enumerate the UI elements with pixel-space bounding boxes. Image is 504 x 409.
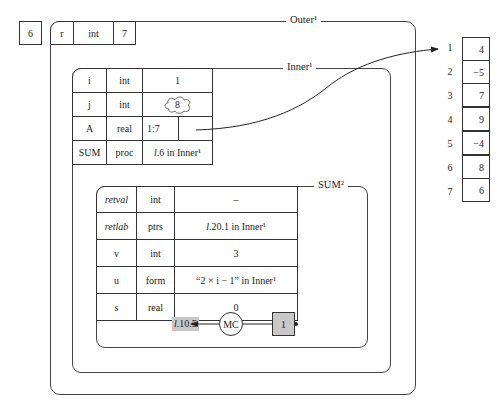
cell-text: real <box>117 123 132 134</box>
array-cell: 7 <box>462 83 490 107</box>
array-index: 5 <box>443 138 457 149</box>
cell-text: form <box>146 275 165 286</box>
cell-text: – <box>234 194 239 205</box>
inner-row-type: proc <box>106 140 143 165</box>
outer-var-type-text: int <box>88 28 99 39</box>
array-index: 2 <box>443 66 457 77</box>
cell-text: 0 <box>234 302 239 313</box>
outer-var-name: r <box>50 21 74 45</box>
sum-row-type: real <box>136 293 175 321</box>
outer-var-value-text: 7 <box>122 28 127 39</box>
array-value: −5 <box>473 67 484 78</box>
cell-text: proc <box>116 147 134 158</box>
sum-row-type: int <box>136 186 175 213</box>
cell-text: u <box>114 275 119 286</box>
array-value: −4 <box>473 138 484 149</box>
array-index: 4 <box>443 114 457 125</box>
array-index: 6 <box>443 162 457 173</box>
array-cell: 4 <box>462 37 490 61</box>
outer-var-value: 7 <box>113 21 136 45</box>
inner-row-name: SUM <box>72 140 107 165</box>
array-cell: −4 <box>462 131 490 155</box>
array-value: 8 <box>479 162 484 173</box>
sum-row-name: retval <box>96 186 137 213</box>
cell-text: int <box>119 99 130 110</box>
sum-row-type: form <box>136 266 175 294</box>
cell-text: i <box>88 75 91 86</box>
cell-text: 1 <box>175 75 180 86</box>
sum-row-name: retlab <box>96 212 137 240</box>
inner-row-value: 1:7 <box>142 116 179 141</box>
outer-title: Outer¹ <box>286 14 321 26</box>
cell-text: .20.1 in Inner¹ <box>209 221 266 232</box>
inner-row-type: int <box>106 92 143 117</box>
array-cell: 9 <box>462 107 490 131</box>
array-index: 3 <box>443 90 457 101</box>
cell-text: 1:7 <box>147 123 160 134</box>
array-cell: 8 <box>462 155 490 179</box>
cell-text: s <box>115 302 119 313</box>
sum-row-value: 3 <box>174 239 298 267</box>
array-value: 7 <box>479 90 484 101</box>
array-index: 7 <box>443 186 457 197</box>
cell-text: 8 <box>175 99 180 110</box>
cell-text: retval <box>105 194 128 205</box>
inner-row-name: i <box>72 68 107 93</box>
array-cell: 6 <box>462 178 490 202</box>
inner-row-value: l.6 in Inner¹ <box>142 140 213 165</box>
cell-text: ptrs <box>148 221 163 232</box>
cell-text: real <box>148 302 163 313</box>
counter-value: 1 <box>281 319 286 330</box>
inner-row-type: real <box>106 116 143 141</box>
outer-var-type: int <box>73 21 114 45</box>
array-pointer-cell <box>178 116 213 141</box>
array-value: 4 <box>479 44 484 55</box>
cell-text: retlab <box>105 221 129 232</box>
sum-row-name: s <box>96 293 137 321</box>
outside-value: 6 <box>28 28 33 39</box>
inner-row-value: 1 <box>142 68 213 93</box>
sum-title: SUM² <box>314 179 348 191</box>
cell-text: .6 in Inner¹ <box>157 147 201 158</box>
cell-text: SUM <box>79 147 101 158</box>
cell-text: int <box>150 248 161 259</box>
cell-text: A <box>86 123 93 134</box>
array-value: 6 <box>479 185 484 196</box>
sum-row-name: v <box>96 239 137 267</box>
return-label-text: .10.5 <box>177 318 197 329</box>
inner-row-type: int <box>106 68 143 93</box>
array-index: 1 <box>443 42 457 53</box>
sum-row-type: int <box>136 239 175 267</box>
outer-var-name-text: r <box>60 28 63 39</box>
sum-row-type: ptrs <box>136 212 175 240</box>
cell-text: int <box>150 194 161 205</box>
cell-text: 3 <box>234 248 239 259</box>
array-cell: −5 <box>462 60 490 84</box>
counter-box: 1 <box>272 312 295 336</box>
mc-circle: MC <box>219 312 243 336</box>
cell-text: “2 × i − 1” in Inner¹ <box>196 275 276 286</box>
array-value: 9 <box>479 114 484 125</box>
inner-row-name: A <box>72 116 107 141</box>
return-label: l.10.5 <box>172 317 199 331</box>
mc-label: MC <box>223 319 239 330</box>
inner-title: Inner¹ <box>283 61 316 73</box>
inner-row-name: j <box>72 92 107 117</box>
outside-value-box: 6 <box>19 21 42 45</box>
inner-row-value: 8 <box>142 92 213 117</box>
cell-text: int <box>119 75 130 86</box>
cell-text: v <box>114 248 119 259</box>
sum-row-name: u <box>96 266 137 294</box>
cell-text: j <box>88 99 91 110</box>
sum-row-value: l.20.1 in Inner¹ <box>174 212 298 240</box>
sum-row-value: – <box>174 186 298 213</box>
sum-row-value: “2 × i − 1” in Inner¹ <box>174 266 298 294</box>
